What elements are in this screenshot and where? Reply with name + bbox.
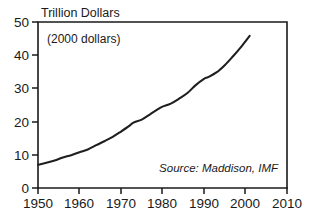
source-annotation: Source: Maddison, IMF (159, 162, 279, 174)
y-tick-label-0: 0 (21, 181, 29, 196)
x-tick-label-1970: 1970 (106, 196, 136, 211)
y-tick-label-40: 40 (14, 48, 29, 63)
gdp-line-chart: 50 40 30 20 10 0 1950 1960 1970 1980 199… (0, 0, 310, 214)
x-axis-ticks (38, 188, 287, 194)
y-tick-label-50: 50 (14, 15, 29, 30)
x-tick-label-1950: 1950 (23, 196, 53, 211)
x-tick-label-1980: 1980 (147, 196, 177, 211)
y-axis-ticks (32, 22, 38, 188)
x-tick-label-2000: 2000 (230, 196, 260, 211)
x-tick-label-2010: 2010 (272, 196, 302, 211)
x-tick-label-1960: 1960 (64, 196, 94, 211)
chart-title: Trillion Dollars (41, 6, 120, 20)
y-axis-tick-labels: 50 40 30 20 10 0 (14, 15, 29, 196)
y-tick-label-10: 10 (14, 148, 29, 163)
chart-figure: 50 40 30 20 10 0 1950 1960 1970 1980 199… (0, 0, 310, 214)
world-gdp-line (38, 36, 250, 165)
x-axis-tick-labels: 1950 1960 1970 1980 1990 2000 2010 (23, 196, 302, 211)
y-tick-label-20: 20 (14, 115, 29, 130)
units-annotation: (2000 dollars) (47, 32, 120, 46)
y-tick-label-30: 30 (14, 81, 29, 96)
x-tick-label-1990: 1990 (189, 196, 219, 211)
